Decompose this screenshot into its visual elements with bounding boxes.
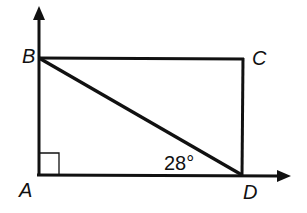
label-c: C [252, 47, 267, 69]
segment-bd [39, 58, 242, 175]
label-d: D [243, 181, 257, 203]
ray-a-right [37, 175, 280, 176]
segment-cd [242, 58, 243, 176]
arrowhead-up-icon [33, 6, 45, 20]
angle-label: 28° [164, 152, 194, 174]
label-a: A [18, 179, 32, 201]
geometry-diagram: B C A D 28° [0, 0, 307, 213]
segment-bc [39, 58, 244, 59]
right-angle-mark-icon [39, 153, 59, 175]
label-b: B [22, 45, 35, 67]
arrowhead-right-icon [277, 170, 291, 182]
